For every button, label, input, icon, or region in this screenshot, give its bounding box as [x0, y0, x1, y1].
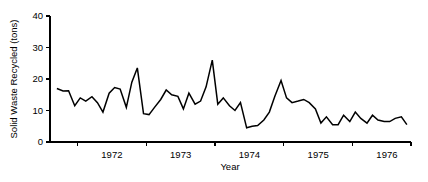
y-tick-label-20: 20 — [32, 73, 43, 84]
chart-figure: 010203040 19721973197419751976 Solid Was… — [0, 0, 428, 182]
x-tick-label-1976: 1976 — [376, 149, 397, 160]
y-axis-title: Solid Waste Recycled (tons) — [8, 20, 19, 139]
line-chart: 010203040 19721973197419751976 Solid Was… — [0, 0, 428, 182]
x-axis-title: Year — [220, 161, 239, 172]
data-series-group — [57, 60, 407, 128]
chart-axes — [50, 16, 411, 142]
y-tick-label-40: 40 — [32, 10, 43, 21]
y-tick-label-30: 30 — [32, 42, 43, 53]
x-tick-label-1973: 1973 — [170, 149, 191, 160]
x-tick-label-1975: 1975 — [308, 149, 329, 160]
x-tick-label-1972: 1972 — [101, 149, 122, 160]
x-tick-label-1974: 1974 — [239, 149, 260, 160]
y-tick-label-0: 0 — [38, 136, 43, 147]
axis-spines — [50, 16, 411, 142]
chart-tick-marks — [46, 16, 411, 146]
x-tick-labels: 19721973197419751976 — [101, 149, 397, 160]
y-tick-labels: 010203040 — [32, 10, 43, 147]
data-line-series-0 — [57, 60, 407, 128]
y-tick-label-10: 10 — [32, 105, 43, 116]
